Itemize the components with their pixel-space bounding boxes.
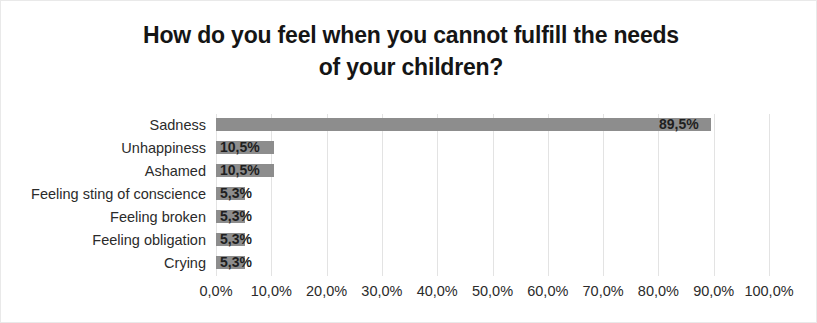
x-axis: 0,0%10,0%20,0%30,0%40,0%50,0%60,0%70,0%8… bbox=[216, 282, 769, 308]
bar-value-label: 5,3% bbox=[220, 231, 252, 248]
category-axis: SadnessUnhappinessAshamedFeeling sting o… bbox=[1, 114, 209, 276]
category-label: Crying bbox=[1, 255, 206, 271]
bar-value-label: 5,3% bbox=[220, 185, 252, 202]
category-label: Unhappiness bbox=[1, 140, 206, 156]
category-label: Feeling sting of conscience bbox=[1, 186, 206, 202]
bar-value-label: 5,3% bbox=[220, 208, 252, 225]
x-tick-label: 40,0% bbox=[417, 282, 458, 300]
category-label: Ashamed bbox=[1, 163, 206, 179]
bar-value-label: 89,5% bbox=[659, 116, 699, 133]
chart-title: How do you feel when you cannot fulfill … bbox=[61, 19, 761, 83]
bar-row: 5,3% bbox=[216, 229, 769, 252]
bar-row: 5,3% bbox=[216, 183, 769, 206]
x-tick-label: 80,0% bbox=[638, 282, 679, 300]
x-tick-label: 100,0% bbox=[744, 282, 793, 300]
chart-title-line-2: of your children? bbox=[61, 51, 761, 83]
x-tick-label: 60,0% bbox=[527, 282, 568, 300]
category-label: Feeling broken bbox=[1, 209, 206, 225]
bar-value-label: 10,5% bbox=[220, 162, 260, 179]
bar-row: 5,3% bbox=[216, 206, 769, 229]
x-tick-label: 0,0% bbox=[199, 282, 232, 300]
bar-value-label: 5,3% bbox=[220, 254, 252, 271]
x-tick-label: 20,0% bbox=[306, 282, 347, 300]
bar[interactable] bbox=[216, 118, 711, 131]
x-tick-label: 50,0% bbox=[472, 282, 513, 300]
bar-row: 10,5% bbox=[216, 137, 769, 160]
x-tick-label: 30,0% bbox=[361, 282, 402, 300]
plot-area: 89,5%10,5%10,5%5,3%5,3%5,3%5,3% bbox=[216, 114, 769, 276]
chart-title-line-1: How do you feel when you cannot fulfill … bbox=[61, 19, 761, 51]
plot-wrapper: SadnessUnhappinessAshamedFeeling sting o… bbox=[1, 114, 817, 323]
x-tick-label: 90,0% bbox=[693, 282, 734, 300]
x-tick-label: 10,0% bbox=[251, 282, 292, 300]
bar-row: 10,5% bbox=[216, 160, 769, 183]
category-label: Sadness bbox=[1, 117, 206, 133]
chart-container: How do you feel when you cannot fulfill … bbox=[0, 0, 817, 323]
x-tick-label: 70,0% bbox=[583, 282, 624, 300]
bar-row: 89,5% bbox=[216, 114, 769, 137]
category-label: Feeling obligation bbox=[1, 232, 206, 248]
bar-value-label: 10,5% bbox=[220, 139, 260, 156]
gridline bbox=[769, 114, 770, 276]
bar-row: 5,3% bbox=[216, 252, 769, 275]
